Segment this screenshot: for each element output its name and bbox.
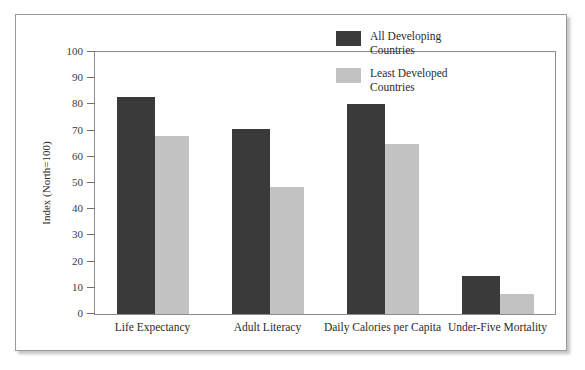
y-axis-tick-label: 60 [72, 148, 83, 165]
y-axis-title: Index (North=100) [38, 51, 54, 315]
y-axis-tick-label: 50 [72, 174, 83, 191]
y-axis-tick: 20 [87, 261, 95, 262]
legend-item: All Developing Countries [336, 29, 448, 57]
y-axis-tick: 80 [87, 103, 95, 104]
y-axis-tick-label: 100 [67, 43, 84, 60]
bar [385, 144, 419, 314]
x-axis-label: Under-Five Mortality [448, 321, 547, 333]
y-axis-tick: 90 [87, 77, 95, 78]
y-axis-tick: 40 [87, 208, 95, 209]
plot-canvas: 1009080706050403020100 [95, 52, 555, 314]
figure-frame: Index (North=100) 1009080706050403020100… [15, 14, 567, 351]
plot-area: 1009080706050403020100 [94, 51, 556, 315]
bar [347, 104, 385, 314]
y-axis-tick: 100 [87, 51, 95, 52]
bar [232, 129, 270, 314]
bar [117, 97, 155, 314]
y-axis-tick: 30 [87, 234, 95, 235]
x-axis-label: Daily Calories per Capita [324, 321, 441, 333]
bar [155, 136, 189, 314]
y-axis-tick: 50 [87, 182, 95, 183]
chart-legend: All Developing CountriesLeast Developed … [336, 29, 448, 94]
x-axis-label: Adult Literacy [234, 321, 301, 333]
y-axis-tick: 60 [87, 156, 95, 157]
bar [462, 276, 500, 314]
legend-swatch [336, 31, 361, 46]
legend-swatch [336, 68, 361, 83]
x-axis-label: Life Expectancy [115, 321, 191, 333]
bar [270, 187, 304, 314]
y-axis-tick: 70 [87, 130, 95, 131]
legend-label: Least Developed Countries [370, 66, 448, 94]
y-axis-tick: 10 [87, 287, 95, 288]
bar [500, 294, 534, 314]
legend-item: Least Developed Countries [336, 66, 448, 94]
chart-page: Index (North=100) 1009080706050403020100… [0, 0, 585, 370]
y-axis-tick-label: 90 [72, 69, 83, 86]
y-axis-tick-label: 0 [78, 305, 84, 322]
y-axis-tick-label: 20 [72, 253, 83, 270]
y-axis-tick: 0 [87, 313, 95, 314]
y-axis-tick-label: 70 [72, 122, 83, 139]
y-axis-tick-label: 40 [72, 200, 83, 217]
y-axis-tick-label: 30 [72, 226, 83, 243]
y-axis-tick-label: 10 [72, 279, 83, 296]
y-axis-tick-label: 80 [72, 95, 83, 112]
legend-label: All Developing Countries [370, 29, 441, 57]
